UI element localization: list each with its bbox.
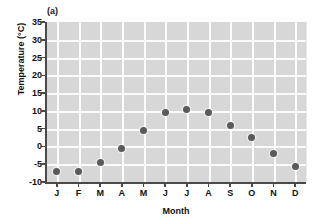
y-tick-mark — [41, 181, 45, 183]
x-tick-mark — [208, 183, 210, 187]
y-axis-spine — [45, 22, 47, 183]
gridline-horizontal — [46, 93, 306, 95]
x-tick-mark — [56, 183, 58, 187]
figure-panel-a: (a) Temperature (°C) 35302520151050-5-10… — [0, 0, 319, 224]
y-tick-label: 0 — [2, 141, 42, 151]
y-tick-label: 35 — [2, 17, 42, 27]
x-tick-mark — [294, 183, 296, 187]
y-tick-label: 30 — [2, 35, 42, 45]
y-tick-label: -5 — [2, 159, 42, 169]
data-point — [97, 159, 104, 166]
y-tick-mark — [41, 39, 45, 41]
x-tick-mark — [143, 183, 145, 187]
x-axis-title: Month — [46, 206, 306, 216]
y-tick-mark — [41, 57, 45, 59]
gridline-vertical — [57, 22, 59, 182]
x-tick-mark — [273, 183, 275, 187]
data-point — [227, 122, 234, 129]
y-tick-label: 25 — [2, 53, 42, 63]
x-tick-mark — [164, 183, 166, 187]
gridline-horizontal — [46, 164, 306, 166]
y-tick-label: 15 — [2, 88, 42, 98]
gridline-vertical — [295, 22, 297, 182]
gridline-vertical — [274, 22, 276, 182]
gridline-vertical — [122, 22, 124, 182]
data-point — [75, 168, 82, 175]
panel-label: (a) — [47, 6, 58, 16]
gridline-horizontal — [46, 111, 306, 113]
y-tick-mark — [41, 146, 45, 148]
data-point — [140, 127, 147, 134]
data-point — [292, 163, 299, 170]
gridline-horizontal — [46, 129, 306, 131]
plot-area — [46, 22, 307, 182]
y-tick-label: 10 — [2, 106, 42, 116]
gridline-vertical — [144, 22, 146, 182]
gridline-vertical — [79, 22, 81, 182]
x-tick-label: D — [280, 188, 310, 198]
data-point — [183, 106, 190, 113]
y-tick-mark — [41, 110, 45, 112]
y-tick-mark — [41, 163, 45, 165]
y-axis-ticks: 35302520151050-5-10 — [0, 0, 42, 224]
x-axis-spine — [45, 182, 306, 184]
y-tick-label: -10 — [2, 177, 42, 187]
y-tick-mark — [41, 128, 45, 130]
gridline-vertical — [209, 22, 211, 182]
y-tick-mark — [41, 75, 45, 77]
gridline-horizontal — [46, 75, 306, 77]
y-tick-label: 20 — [2, 70, 42, 80]
y-tick-mark — [41, 21, 45, 23]
gridline-vertical — [252, 22, 254, 182]
x-tick-mark — [186, 183, 188, 187]
gridline-vertical — [187, 22, 189, 182]
gridline-vertical — [165, 22, 167, 182]
x-tick-mark — [78, 183, 80, 187]
gridline-horizontal — [46, 58, 306, 60]
gridline-horizontal — [46, 40, 306, 42]
data-point — [162, 109, 169, 116]
gridline-vertical — [230, 22, 232, 182]
y-tick-label: 5 — [2, 124, 42, 134]
data-point — [270, 150, 277, 157]
y-tick-mark — [41, 92, 45, 94]
x-tick-mark — [121, 183, 123, 187]
x-tick-mark — [99, 183, 101, 187]
x-tick-mark — [229, 183, 231, 187]
x-tick-mark — [251, 183, 253, 187]
gridline-horizontal — [46, 146, 306, 148]
